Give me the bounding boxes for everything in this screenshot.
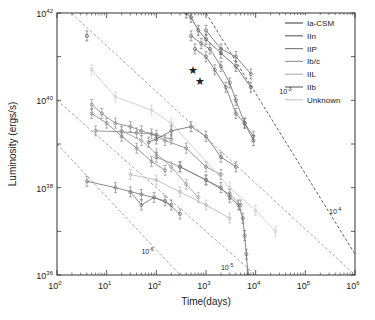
- series-iib: [129, 187, 173, 210]
- legend-label: Ia-CSM: [307, 19, 334, 28]
- x-tick-label: 104: [247, 280, 261, 291]
- x-tick-label: 102: [148, 280, 162, 291]
- legend-label: IIL: [307, 70, 316, 79]
- legend: Ia-CSMIInIIPIb/cIILIIbUnknown: [283, 15, 351, 107]
- x-axis-label: Time(days): [181, 296, 231, 307]
- legend-label: IIP: [307, 45, 317, 54]
- x-tick-label: 105: [297, 280, 311, 291]
- y-tick-label: 1040: [36, 95, 53, 106]
- y-tick-label: 1042: [36, 8, 53, 19]
- reference-line: [57, 144, 180, 275]
- series-unknown: [90, 65, 277, 237]
- legend-label: Ib/c: [307, 57, 320, 66]
- series-iin: [193, 44, 255, 146]
- series-iip: [94, 126, 223, 180]
- series-ia-csm: [85, 31, 88, 41]
- series-iin: [178, 162, 249, 280]
- legend-label: Unknown: [307, 96, 340, 105]
- x-tick-label: 100: [48, 280, 62, 291]
- x-tick-label: 106: [346, 280, 360, 291]
- y-tick-label: 1038: [36, 183, 53, 194]
- x-tick-label: 101: [98, 280, 112, 291]
- reference-line-label: 10-4: [329, 206, 341, 215]
- reference-line: [57, 100, 256, 275]
- series-iip: [90, 100, 173, 144]
- x-tick-label: 103: [197, 280, 211, 291]
- legend-label: IIb: [307, 83, 316, 92]
- chart-figure: ★★ 100101102103104105106 103610381040104…: [0, 0, 375, 320]
- reference-line-label: 10-6: [141, 246, 153, 255]
- star-markers: ★★: [188, 64, 205, 87]
- data-series: [85, 8, 277, 280]
- legend-label: IIn: [307, 32, 316, 41]
- reference-line-label: 10-5: [221, 262, 233, 271]
- y-tick-label: 1036: [36, 270, 53, 281]
- luminosity-time-plot: ★★ 100101102103104105106 103610381040104…: [0, 0, 375, 320]
- star-icon: ★: [195, 75, 205, 87]
- y-axis-label: Luminosity (ergs/s): [7, 102, 18, 186]
